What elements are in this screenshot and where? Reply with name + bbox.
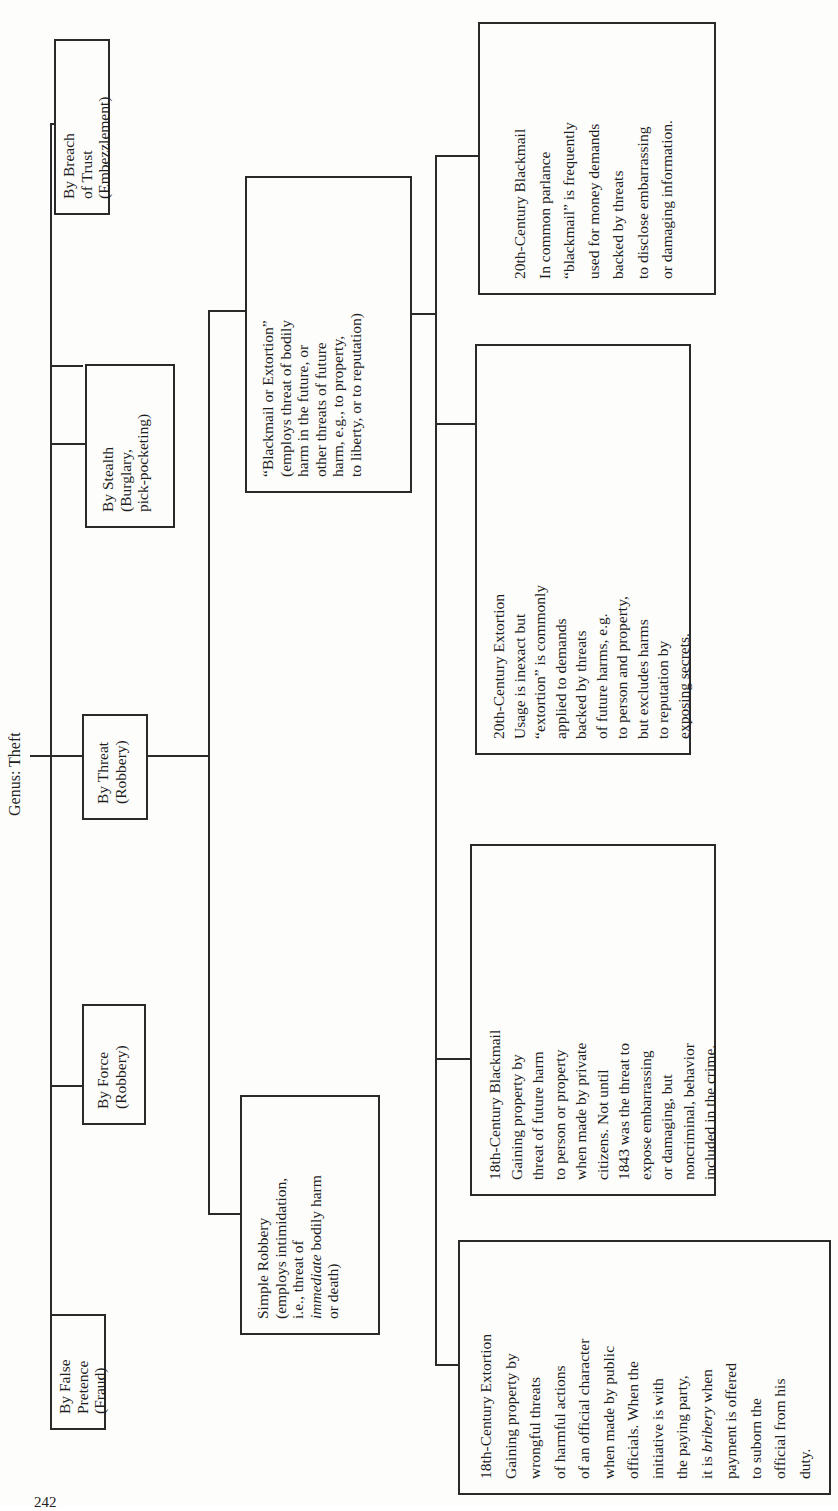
connector-c20-blackmail [435, 155, 478, 157]
threat-to-level2-stem [148, 755, 208, 757]
italic-immediate: immediate [307, 1254, 324, 1319]
blackmail-to-level3-stem [412, 313, 435, 315]
italic-bribery: bribery [698, 1407, 715, 1453]
node-18th-century-extortion: 18th-Century Extortion Gaining property … [458, 1240, 831, 1495]
stem-force [50, 365, 83, 367]
node-by-breach-of-trust: By Breach of Trust (Embezzlement) [54, 39, 110, 215]
level3-trunk [435, 157, 437, 1366]
connector-c18-extortion [435, 1364, 458, 1366]
connector-simple-robbery [208, 1213, 240, 1215]
genus-label: Genus: Theft [6, 732, 24, 816]
node-by-stealth: By Stealth (Burglary, pick-pocketing) [85, 364, 175, 528]
node-18th-century-blackmail: 18th-Century Blackmail Gaining property … [470, 844, 716, 1196]
connector-c18-blackmail [435, 1058, 470, 1060]
connector-by-stealth-main [50, 443, 85, 445]
node-simple-robbery: Simple Robbery (employs intimidation, i.… [240, 1095, 380, 1335]
node-by-false-pretence: By False Pretence (Fraud) [50, 1314, 106, 1430]
connector-by-threat [50, 755, 82, 757]
page-number: 242 [34, 1494, 57, 1511]
level1-trunk [50, 125, 52, 1427]
node-20th-century-extortion: 20th-Century Extortion Usage is inexact … [475, 344, 691, 755]
root-stem [30, 755, 50, 757]
node-blackmail-or-extortion: “Blackmail or Extortion” (employs threat… [245, 176, 412, 493]
connector-by-force [50, 1085, 82, 1087]
level2-trunk [208, 312, 210, 1215]
connector-blackmail-or-extortion [208, 310, 245, 312]
connector-c20-extortion [435, 423, 475, 425]
node-by-force: By Force (Robbery) [82, 1004, 146, 1125]
node-by-threat: By Threat (Robbery) [82, 714, 148, 820]
node-20th-century-blackmail: 20th-Century Blackmail In common parlanc… [478, 22, 716, 295]
